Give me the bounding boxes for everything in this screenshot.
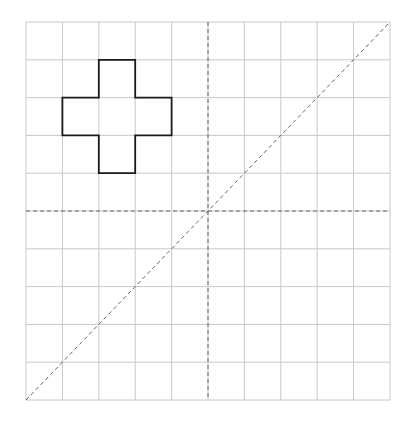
- cross-shape: [62, 60, 171, 173]
- symmetry-grid-diagram: [0, 0, 417, 426]
